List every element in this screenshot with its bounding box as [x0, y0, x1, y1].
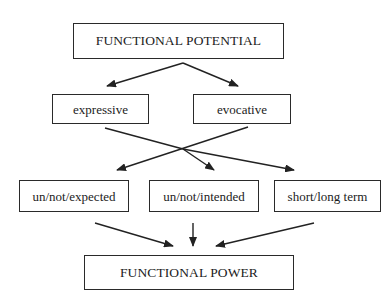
arrow-shortlong-to-power: [216, 223, 314, 246]
node-short-long-term: short/long term: [274, 180, 381, 212]
node-functional-potential-label: FUNCTIONAL POTENTIAL: [96, 34, 261, 48]
node-un-not-intended: un/not/intended: [149, 180, 259, 212]
arrow-potential-to-evocative: [183, 63, 238, 86]
line-expressive-to-cross: [105, 128, 183, 149]
node-un-not-expected: un/not/expected: [19, 180, 129, 212]
arrow-potential-to-expressive: [107, 63, 183, 86]
arrow-expected-to-power: [95, 223, 173, 246]
node-functional-potential: FUNCTIONAL POTENTIAL: [73, 23, 284, 59]
node-short-long-term-label: short/long term: [288, 190, 368, 203]
node-functional-power-label: FUNCTIONAL POWER: [120, 266, 258, 280]
node-evocative-label: evocative: [217, 103, 267, 116]
functional-diagram: FUNCTIONAL POTENTIAL expressive evocativ…: [0, 0, 388, 302]
node-functional-power: FUNCTIONAL POWER: [84, 255, 294, 290]
arrow-evocative-to-expected: [117, 127, 248, 170]
node-expressive-label: expressive: [73, 103, 128, 116]
node-un-not-expected-label: un/not/expected: [32, 190, 115, 203]
node-un-not-intended-label: un/not/intended: [163, 190, 245, 203]
node-expressive: expressive: [52, 94, 149, 124]
node-evocative: evocative: [193, 94, 291, 124]
